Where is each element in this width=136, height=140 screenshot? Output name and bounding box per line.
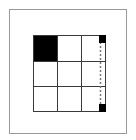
top-marker xyxy=(99,35,106,43)
grid-diagram xyxy=(0,0,136,140)
filled-cell xyxy=(33,35,57,61)
bottom-marker xyxy=(99,104,106,112)
